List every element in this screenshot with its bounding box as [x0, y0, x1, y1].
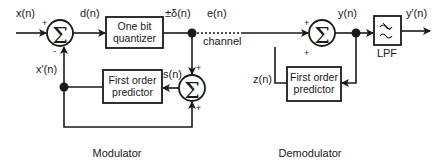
sum1-plus-sign: + [42, 18, 47, 28]
quantizer-label-line1: One bit [118, 20, 152, 32]
modulator: x(n) + - Σ d(n) One bit quantizer ±δ(n) … [16, 7, 205, 159]
demod-feedback-arrow [342, 33, 356, 83]
one-bit-quantizer-block: One bit quantizer [106, 17, 163, 48]
modulator-predictor-block: First order predictor [103, 70, 162, 103]
demod-sum-top-sign: + [304, 18, 309, 28]
summer-2: Σ [179, 75, 205, 103]
demod-predictor-output-line [275, 47, 287, 83]
predictor-label-line2: predictor [294, 83, 335, 95]
demod-sum-bottom-sign: + [304, 48, 309, 58]
demodulator: + Σ + y(n) LPF y'(n) First order predict… [253, 7, 430, 159]
summer-1: Σ [47, 20, 73, 48]
demodulator-predictor-block: First order predictor [287, 67, 341, 101]
demod-feedback-label: z(n) [253, 73, 272, 85]
sum-output-label: s(n) [163, 68, 182, 80]
demod-summer: Σ [309, 20, 335, 48]
lpf-label: LPF [377, 47, 397, 59]
demod-sum-output-label: y(n) [338, 7, 357, 19]
quantizer-label-line2: quantizer [113, 32, 157, 44]
channel-signal-label: e(n) [207, 7, 227, 19]
channel-label: channel [203, 35, 242, 47]
predictor-label-line2: predictor [112, 86, 153, 98]
predictor-label-line1: First order [290, 71, 338, 83]
modulator-caption: Modulator [93, 147, 142, 159]
feedback-label: x'(n) [36, 63, 57, 75]
output-label: y'(n) [406, 7, 427, 19]
quantizer-output-label: ±δ(n) [165, 7, 191, 19]
lpf-block [374, 16, 401, 45]
diff-label: d(n) [80, 7, 100, 19]
demodulator-caption: Demodulator [279, 147, 342, 159]
predictor-label-line1: First order [109, 74, 157, 86]
delta-modulation-diagram: x(n) + - Σ d(n) One bit quantizer ±δ(n) … [0, 0, 446, 163]
sum2-bottom-sign: + [196, 103, 201, 113]
sum2-top-sign: + [196, 63, 201, 73]
sigma-icon: Σ [314, 23, 330, 48]
sigma-icon: Σ [184, 78, 200, 103]
sigma-icon: Σ [52, 23, 68, 48]
channel: e(n) channel [197, 7, 308, 47]
input-label: x(n) [16, 7, 35, 19]
